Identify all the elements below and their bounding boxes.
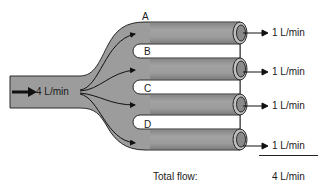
outflow-label-d: 1 L/min: [272, 141, 305, 151]
branch-label-b: B: [144, 47, 151, 57]
branch-label-a: A: [142, 12, 149, 22]
branch-label-c: C: [144, 84, 151, 94]
outflow-label-b: 1 L/min: [272, 67, 305, 77]
sum-underline: [259, 155, 318, 156]
outflow-arrows-icon: [243, 30, 268, 149]
outflow-label-a: 1 L/min: [272, 28, 305, 38]
branch-label-d: D: [144, 120, 151, 130]
inlet-flow-label: 4 L/min: [36, 87, 69, 97]
total-flow-label: Total flow:: [153, 172, 197, 182]
total-flow-value: 4 L/min: [272, 172, 305, 182]
outflow-label-c: 1 L/min: [272, 101, 305, 111]
